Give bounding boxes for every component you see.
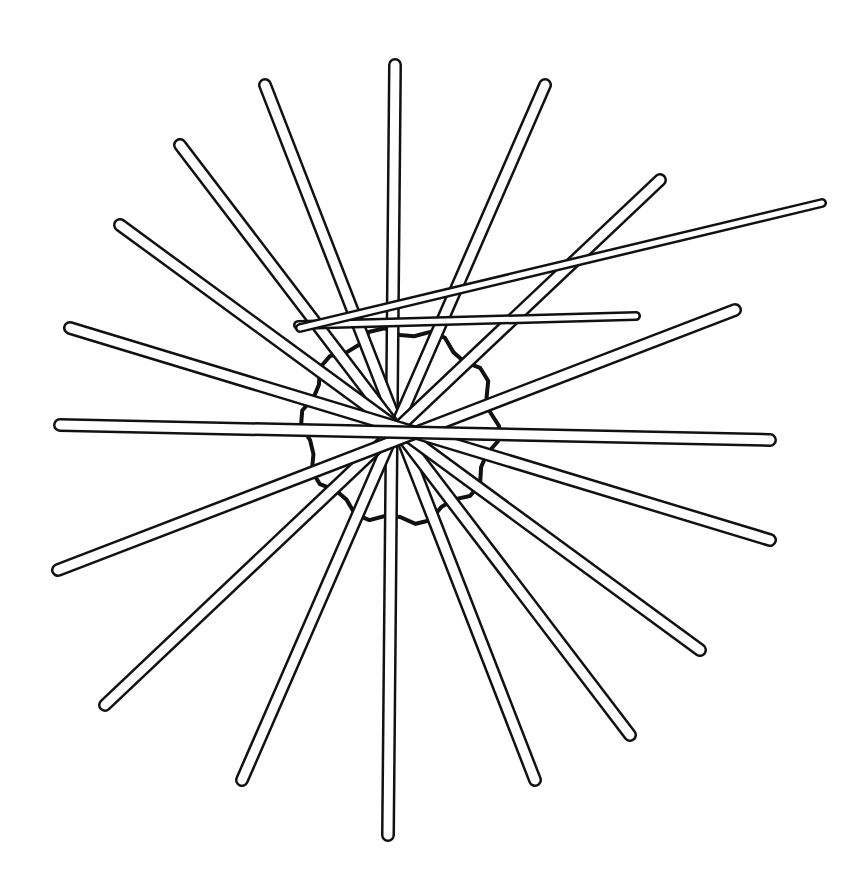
stick xyxy=(60,425,770,440)
sticks-illustration xyxy=(0,0,865,890)
stick xyxy=(300,203,822,328)
